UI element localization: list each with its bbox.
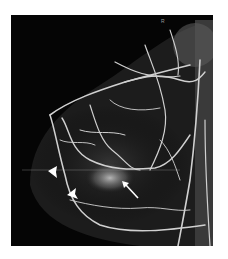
mri-image: R: [11, 15, 213, 246]
corner-label: R: [161, 18, 165, 24]
vessel-drawing: [11, 15, 213, 246]
